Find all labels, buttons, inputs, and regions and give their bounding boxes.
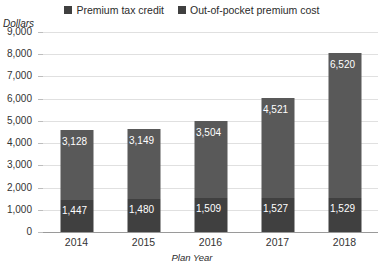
bar-value-label: 3,128 [60,136,87,147]
bar-slot: 3,5041,509 [177,32,244,232]
y-axis-tick-label: 7,000 [0,71,32,81]
bar-stack[interactable]: 3,5041,509 [194,121,227,232]
x-axis-tick-label: 2016 [177,236,244,249]
legend-label: Out-of-pocket premium cost [190,4,320,16]
bar-value-label: 1,480 [127,204,154,215]
bar-stack[interactable]: 4,5211,527 [261,98,294,232]
chart-legend: Premium tax credit Out-of-pocket premium… [0,1,384,19]
bar-value-label: 1,527 [261,203,288,214]
legend-swatch-icon [178,6,186,14]
x-axis-tick-label: 2015 [110,236,177,249]
bar-stack[interactable]: 6,5201,529 [328,53,361,232]
bar-stack[interactable]: 3,1281,447 [60,130,93,232]
bar-segment-premium-tax-credit[interactable]: 6,520 [328,53,361,198]
bar-value-label: 1,447 [60,205,87,216]
plot-area: 01,0002,0003,0004,0005,0006,0007,0008,00… [43,32,378,232]
x-axis-tick-label: 2014 [43,236,110,249]
y-axis-tick-mark [38,232,43,233]
bar-value-label: 3,504 [194,127,221,138]
y-axis-tick-label: 2,000 [0,183,32,193]
bar-segment-premium-tax-credit[interactable]: 3,149 [127,129,160,199]
bar-segment-out-of-pocket-premium-cost[interactable]: 1,480 [127,199,160,232]
bar-segment-out-of-pocket-premium-cost[interactable]: 1,447 [60,200,93,232]
y-axis-tick-label: 1,000 [0,205,32,215]
gridline [43,232,378,233]
y-axis-tick-label: 9,000 [0,27,32,37]
x-axis-title: Plan Year [0,252,384,263]
bar-segment-premium-tax-credit[interactable]: 3,128 [60,130,93,200]
bar-value-label: 1,529 [328,203,355,214]
bar-series-group: 3,1281,4473,1491,4803,5041,5094,5211,527… [43,32,378,232]
stacked-bar-chart: Premium tax credit Out-of-pocket premium… [0,0,384,269]
bar-value-label: 1,509 [194,203,221,214]
x-axis-tick-label: 2017 [244,236,311,249]
bar-value-label: 6,520 [328,59,355,70]
y-axis-tick-label: 4,000 [0,138,32,148]
y-axis-tick-label: 8,000 [0,49,32,59]
legend-swatch-icon [64,6,72,14]
x-axis-tick-labels: 20142015201620172018 [43,236,378,249]
bar-segment-out-of-pocket-premium-cost[interactable]: 1,509 [194,198,227,232]
bar-slot: 6,5201,529 [311,32,378,232]
bar-segment-out-of-pocket-premium-cost[interactable]: 1,527 [261,198,294,232]
y-axis-tick-label: 5,000 [0,116,32,126]
bar-stack[interactable]: 3,1491,480 [127,129,160,232]
x-axis-tick-label: 2018 [311,236,378,249]
bar-value-label: 4,521 [261,104,288,115]
y-axis-tick-label: 3,000 [0,160,32,170]
bar-value-label: 3,149 [127,135,154,146]
bar-slot: 3,1491,480 [110,32,177,232]
bar-segment-out-of-pocket-premium-cost[interactable]: 1,529 [328,198,361,232]
y-axis-tick-label: 0 [0,227,32,237]
bar-slot: 3,1281,447 [43,32,110,232]
bar-segment-premium-tax-credit[interactable]: 3,504 [194,121,227,199]
bar-slot: 4,5211,527 [244,32,311,232]
legend-label: Premium tax credit [76,4,164,16]
bar-segment-premium-tax-credit[interactable]: 4,521 [261,98,294,198]
legend-item-out-of-pocket-premium-cost[interactable]: Out-of-pocket premium cost [178,4,320,16]
legend-item-premium-tax-credit[interactable]: Premium tax credit [64,4,164,16]
y-axis-tick-label: 6,000 [0,94,32,104]
